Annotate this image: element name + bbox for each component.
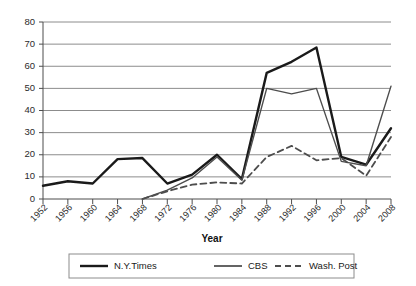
y-axis-tick-label: 60 (24, 60, 35, 71)
x-axis-tick-labels: 1952195619601964196819721976198019841988… (28, 202, 397, 223)
x-axis-tick-label: 1988 (252, 202, 273, 223)
x-axis-tick-label: 1964 (103, 202, 124, 223)
x-axis-tick-label: 2000 (326, 202, 347, 223)
line-chart-svg: 01020304050607080 1952195619601964196819… (0, 0, 416, 286)
x-axis-tick-label: 1996 (302, 202, 323, 223)
y-axis-tick-label: 0 (30, 193, 35, 204)
legend-label: N.Y.Times (114, 260, 157, 271)
x-axis-tick-label: 1968 (128, 202, 149, 223)
x-axis-tick-label: 1956 (53, 202, 74, 223)
y-axis-tick-label: 80 (24, 16, 35, 27)
y-axis-tick-label: 50 (24, 82, 35, 93)
y-axis-tick-label: 20 (24, 148, 35, 159)
x-axis-tick-label: 1976 (177, 202, 198, 223)
legend-label: CBS (248, 260, 268, 271)
y-axis-ticks (39, 22, 43, 199)
x-axis-tick-label: 1952 (28, 202, 49, 223)
x-axis-tick-label: 1980 (202, 202, 223, 223)
y-axis-tick-label: 70 (24, 38, 35, 49)
x-axis-tick-label: 2008 (376, 202, 397, 223)
chart-figure: 01020304050607080 1952195619601964196819… (0, 0, 416, 286)
x-axis-tick-label: 1984 (227, 202, 248, 223)
chart-legend: N.Y.TimesCBSWash. Post (69, 254, 358, 278)
x-axis-tick-label: 2004 (351, 202, 372, 223)
x-axis-tick-label: 1972 (152, 202, 173, 223)
x-axis-title: Year (201, 233, 222, 244)
x-axis-tick-label: 1992 (277, 202, 298, 223)
legend-label: Wash. Post (309, 260, 358, 271)
y-axis-tick-label: 10 (24, 170, 35, 181)
y-axis-tick-label: 30 (24, 126, 35, 137)
y-axis-tick-labels: 01020304050607080 (24, 16, 35, 204)
x-axis-tick-label: 1960 (78, 202, 99, 223)
y-axis-tick-label: 40 (24, 104, 35, 115)
